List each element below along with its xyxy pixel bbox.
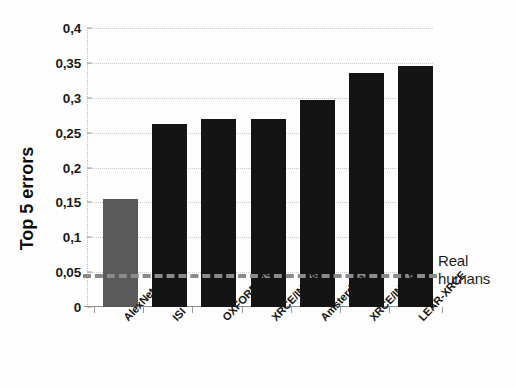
gridline xyxy=(87,28,433,29)
y-axis-tick-mark xyxy=(87,202,92,203)
y-axis-tick-mark xyxy=(87,272,92,273)
y-axis-tick-labels: 00,050,10,150,20,250,30,350,4 xyxy=(0,28,81,307)
x-axis-category-labels: AlexNetISIOXFORD_VGGXRCE/INRIAAmsterdamX… xyxy=(0,307,516,388)
y-axis-tick-mark xyxy=(87,97,92,98)
y-axis-tick-label: 0,35 xyxy=(56,55,81,70)
y-axis-tick-mark xyxy=(87,167,92,168)
y-axis-tick-label: 0,2 xyxy=(63,160,81,175)
chart-figure: Top 5 errors 00,050,10,150,20,250,30,350… xyxy=(0,0,516,388)
x-axis-category-label: ISI xyxy=(170,305,188,323)
bar xyxy=(201,119,236,307)
y-axis-tick-mark xyxy=(87,62,92,63)
bar xyxy=(398,66,433,307)
y-axis-tick-label: 0,1 xyxy=(63,230,81,245)
y-axis-tick-label: 0,4 xyxy=(63,21,81,36)
y-axis-tick-mark xyxy=(87,237,92,238)
y-axis-tick-label: 0,15 xyxy=(56,195,81,210)
gridline xyxy=(87,63,433,64)
real-humans-label-line1: Real xyxy=(438,252,490,270)
y-axis-tick-label: 0,3 xyxy=(63,90,81,105)
y-axis-tick-label: 0,05 xyxy=(56,265,81,280)
y-axis-tick-mark xyxy=(87,307,92,308)
bar xyxy=(349,73,384,307)
plot-area xyxy=(87,28,433,307)
y-axis-tick-mark xyxy=(87,132,92,133)
bar xyxy=(103,199,138,307)
y-axis-tick-label: 0,25 xyxy=(56,125,81,140)
y-axis-tick-mark xyxy=(87,28,92,29)
bar xyxy=(152,124,187,307)
